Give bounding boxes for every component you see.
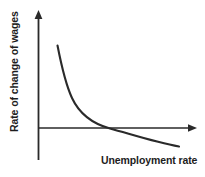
y-axis-label: Rate of change of wages — [8, 12, 20, 132]
x-axis-label: Unemployment rate — [101, 154, 197, 166]
phillips-curve-figure: Rate of change of wages Unemployment rat… — [0, 0, 205, 177]
x-axis-arrow-icon — [188, 124, 197, 131]
y-axis-arrow-icon — [35, 10, 43, 19]
plot-area — [0, 0, 205, 177]
phillips-curve-line — [58, 46, 180, 147]
